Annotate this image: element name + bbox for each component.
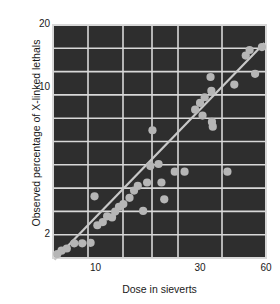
y-axis-tick-10: 10	[26, 81, 50, 92]
data-point	[125, 194, 133, 202]
data-point	[160, 195, 168, 203]
data-point	[251, 70, 259, 78]
data-point	[86, 239, 94, 247]
data-point	[230, 80, 238, 88]
y-axis-tick-group: 20 10 2	[24, 0, 50, 304]
scatter-plot-figure: Observed percentage of X-linked lethals …	[0, 0, 280, 304]
data-point	[191, 106, 199, 114]
data-point	[146, 162, 154, 170]
data-point	[90, 192, 98, 200]
y-axis-tick-20: 20	[26, 18, 50, 29]
data-point	[223, 168, 231, 176]
data-point	[209, 123, 217, 131]
data-point	[258, 43, 266, 51]
data-point	[78, 239, 86, 247]
data-point	[63, 244, 71, 252]
x-axis-label: Dose in sieverts	[53, 283, 266, 295]
x-axis-tick-60: 60	[246, 262, 280, 273]
x-axis-tick-30: 30	[180, 262, 220, 273]
data-point	[245, 46, 253, 54]
data-point	[180, 168, 188, 176]
data-point	[134, 182, 142, 190]
data-point	[206, 73, 214, 81]
data-point	[139, 207, 147, 215]
y-axis-tick-2: 2	[26, 228, 50, 239]
data-point	[201, 93, 209, 101]
data-point	[198, 111, 206, 119]
data-point	[148, 126, 156, 134]
data-point	[171, 168, 179, 176]
data-point	[143, 178, 151, 186]
x-axis-tick-10: 10	[75, 262, 115, 273]
data-point	[157, 178, 165, 186]
data-point	[119, 200, 127, 208]
data-point	[207, 87, 215, 95]
data-point	[154, 160, 162, 168]
data-point	[70, 239, 78, 247]
